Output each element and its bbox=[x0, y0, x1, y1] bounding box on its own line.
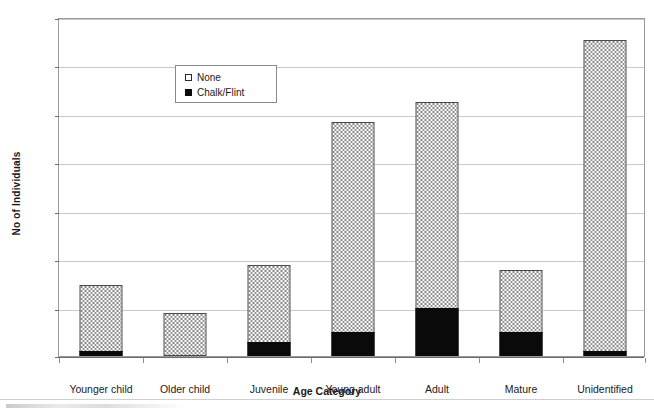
legend-item-none[interactable]: None bbox=[185, 70, 276, 85]
bar-segment-chalk-flint bbox=[248, 342, 291, 356]
legend-label-chalk-flint: Chalk/Flint bbox=[197, 87, 244, 98]
bar-segment-chalk-flint bbox=[332, 332, 375, 356]
bar-segment-none bbox=[332, 122, 375, 333]
bar-segment-none bbox=[248, 265, 291, 342]
y-axis-title: No of Individuals bbox=[11, 134, 22, 254]
page-rule-divider bbox=[0, 399, 654, 400]
bar-segment-none bbox=[80, 285, 123, 353]
x-tick-mark-3 bbox=[311, 358, 312, 363]
legend: None Chalk/Flint bbox=[175, 65, 277, 103]
x-tick-mark-7 bbox=[645, 358, 646, 363]
x-tick-mark-6 bbox=[563, 358, 564, 363]
plot-area: 70 60 50 40 30 20 10 0 bbox=[58, 18, 645, 357]
x-tick-mark-4 bbox=[395, 358, 396, 363]
bar-segment-chalk-flint bbox=[80, 351, 123, 356]
axis-line-zero bbox=[59, 357, 644, 358]
bar-segment-none bbox=[584, 40, 627, 352]
x-tick-mark-5 bbox=[479, 358, 480, 363]
bars-layer bbox=[59, 19, 644, 356]
x-tick-mark-2 bbox=[227, 358, 228, 363]
x-tick-mark-0 bbox=[59, 358, 60, 363]
bar-segment-chalk-flint bbox=[416, 308, 459, 356]
bar-segment-none bbox=[416, 102, 459, 309]
bar-segment-none bbox=[164, 313, 207, 356]
legend-swatch-none-icon bbox=[185, 74, 192, 81]
x-tick-mark-1 bbox=[143, 358, 144, 363]
bar-segment-none bbox=[500, 270, 543, 333]
legend-item-chalk-flint[interactable]: Chalk/Flint bbox=[185, 85, 276, 100]
legend-swatch-chalk-flint-icon bbox=[185, 89, 192, 96]
x-axis-title: Age Category bbox=[0, 385, 654, 397]
bar-segment-chalk-flint bbox=[500, 332, 543, 356]
bar-chart: No of Individuals 70 60 50 40 30 20 10 0 bbox=[0, 0, 654, 411]
bar-segment-chalk-flint bbox=[584, 351, 627, 356]
legend-label-none: None bbox=[197, 72, 221, 83]
page-bottom-text-artifact bbox=[6, 404, 186, 408]
